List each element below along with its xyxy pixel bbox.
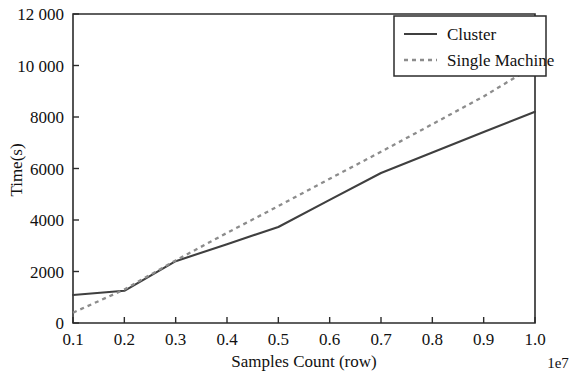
chart-legend: Cluster Single Machine bbox=[394, 16, 554, 76]
line-chart: 0200040006000800010 00012 000 0.10.20.30… bbox=[0, 0, 583, 375]
x-axis-title: Samples Count (row) bbox=[231, 352, 376, 371]
x-tick-label: 0.5 bbox=[268, 330, 289, 349]
data-series-group bbox=[73, 66, 535, 313]
y-axis-title: Time(s) bbox=[7, 143, 26, 196]
series-line-single-machine bbox=[73, 66, 535, 313]
legend-label-cluster: Cluster bbox=[447, 25, 496, 44]
y-tick-label: 6000 bbox=[30, 160, 64, 179]
y-tick-label: 12 000 bbox=[17, 5, 64, 24]
y-tick-label: 8000 bbox=[30, 108, 64, 127]
chart-figure: 0200040006000800010 00012 000 0.10.20.30… bbox=[0, 0, 583, 375]
y-tick-label: 10 000 bbox=[17, 57, 64, 76]
x-tick-label: 0.4 bbox=[216, 330, 238, 349]
x-axis-ticks bbox=[73, 317, 535, 323]
legend-label-single-machine: Single Machine bbox=[447, 51, 554, 70]
y-axis-ticks bbox=[73, 14, 79, 323]
x-tick-label: 0.3 bbox=[165, 330, 186, 349]
x-axis-tick-labels: 0.10.20.30.40.50.60.70.80.91.0 bbox=[62, 330, 545, 349]
x-tick-label: 0.9 bbox=[473, 330, 494, 349]
x-tick-label: 0.2 bbox=[114, 330, 135, 349]
y-tick-label: 4000 bbox=[30, 211, 64, 230]
x-tick-label: 0.1 bbox=[62, 330, 83, 349]
x-axis-offset-label: 1e7 bbox=[547, 355, 569, 371]
x-tick-label: 0.6 bbox=[319, 330, 340, 349]
x-tick-label: 0.7 bbox=[370, 330, 392, 349]
x-tick-label: 0.8 bbox=[422, 330, 443, 349]
series-line-cluster bbox=[73, 112, 535, 295]
y-tick-label: 2000 bbox=[30, 263, 64, 282]
x-tick-label: 1.0 bbox=[524, 330, 545, 349]
